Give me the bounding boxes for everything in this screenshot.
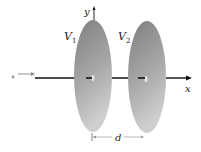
diagram-canvas: y x V 1 V 2 d xyxy=(0,0,201,152)
disk-v1-subscript: 1 xyxy=(72,37,76,45)
incoming-arrow-icon xyxy=(18,72,35,76)
disk-v2-hole xyxy=(144,76,147,82)
disk-v2-subscript: 2 xyxy=(126,37,130,45)
x-axis-arrow-icon xyxy=(166,76,192,81)
particle-dot xyxy=(12,76,15,79)
y-axis xyxy=(93,6,96,20)
y-axis-label: y xyxy=(83,6,90,17)
separation-label: d xyxy=(115,132,121,143)
x-axis-label: x xyxy=(185,83,191,94)
